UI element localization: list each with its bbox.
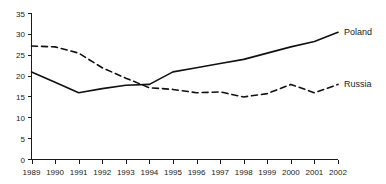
y-tick-label-15: 15	[16, 93, 25, 102]
y-tick-label-30: 30	[16, 30, 25, 39]
x-axis: 1989199019911992199319941995199619971998…	[23, 160, 348, 178]
x-tick-label-1990: 1990	[46, 168, 64, 177]
x-tick-label-1996: 1996	[188, 168, 206, 177]
y-axis-tick-labels: 0 5 10 15 20 25 30 35	[16, 10, 25, 165]
series-line-poland	[32, 32, 339, 92]
x-tick-label-1994: 1994	[140, 168, 158, 177]
x-tick-label-1998: 1998	[235, 168, 253, 177]
chart-canvas: 0 5 10 15 20 25 30 35 198919901991199219…	[0, 0, 386, 184]
x-axis-tick-labels: 1989199019911992199319941995199619971998…	[23, 168, 348, 177]
y-tick-label-10: 10	[16, 114, 25, 123]
series-line-russia	[32, 46, 339, 97]
series-label-poland: Poland	[344, 27, 372, 37]
x-tick-label-1997: 1997	[211, 168, 229, 177]
x-tick-label-1995: 1995	[164, 168, 182, 177]
line-chart: 0 5 10 15 20 25 30 35 198919901991199219…	[0, 0, 386, 184]
y-axis-ticks	[28, 14, 32, 160]
x-tick-label-1989: 1989	[23, 168, 41, 177]
y-tick-label-5: 5	[21, 135, 26, 144]
x-tick-label-1999: 1999	[258, 168, 276, 177]
x-tick-label-2001: 2001	[306, 168, 324, 177]
y-tick-label-35: 35	[16, 10, 25, 19]
y-axis: 0 5 10 15 20 25 30 35	[16, 10, 31, 165]
x-axis-ticks	[33, 160, 339, 164]
y-tick-label-0: 0	[21, 156, 26, 165]
series-group	[32, 32, 339, 97]
x-tick-label-2000: 2000	[282, 168, 300, 177]
x-tick-label-2002: 2002	[329, 168, 347, 177]
x-tick-label-1991: 1991	[70, 168, 88, 177]
x-tick-label-1992: 1992	[93, 168, 111, 177]
y-tick-label-25: 25	[16, 51, 25, 60]
y-tick-label-20: 20	[16, 72, 25, 81]
series-labels: Poland Russia	[344, 27, 372, 89]
series-label-russia: Russia	[344, 79, 372, 89]
x-tick-label-1993: 1993	[117, 168, 135, 177]
